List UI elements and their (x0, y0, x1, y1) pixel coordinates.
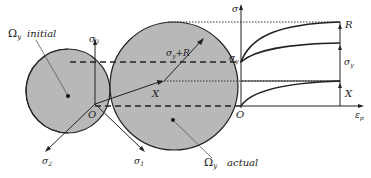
sigma2-label: σ2 (42, 156, 52, 167)
graph-sigma-label: σ (232, 4, 239, 14)
actual-surface-label: Ωyactual (204, 156, 258, 170)
graph-R-label: R (344, 19, 353, 30)
graph-origin-label: O (236, 109, 244, 120)
total-stress-curve (241, 22, 340, 62)
sigma3-label: σ3 (89, 34, 99, 45)
isotropic-curve (241, 43, 340, 62)
origin-label: O (88, 109, 96, 120)
initial-surface-label: Ωyinitial (8, 27, 56, 41)
kinematic-curve (241, 81, 340, 106)
actual-yield-surface (110, 22, 238, 150)
graph-X-label: X (344, 88, 353, 99)
yield-surface-diagram: Ωyinitial Ωyactual σ3 σ2 σ1 O X σy+R σ σ… (0, 0, 371, 178)
backstress-label: X (151, 88, 160, 99)
graph-sigma-y-right-label: σy (344, 57, 354, 69)
sigma1-label: σ1 (134, 156, 144, 167)
graph-eps-label: εp (355, 110, 364, 122)
